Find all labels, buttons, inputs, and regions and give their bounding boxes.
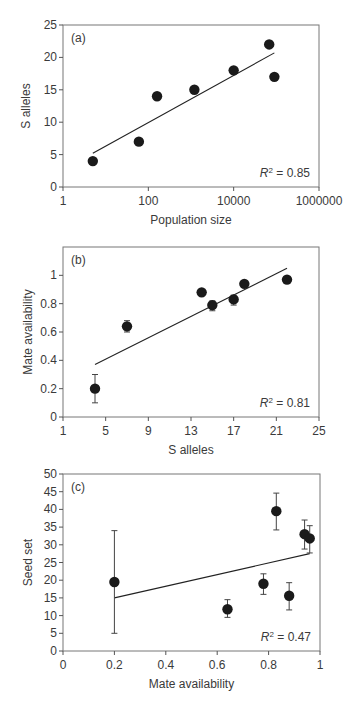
y-tick-label: 40 [44, 502, 58, 516]
x-tick-label: 17 [227, 424, 241, 438]
x-axis-title: Population size [150, 213, 232, 227]
data-point [152, 91, 162, 101]
y-tick-label: 15 [44, 591, 58, 605]
plot-frame [63, 25, 319, 187]
x-tick-label: 1 [60, 424, 67, 438]
x-tick-label: 10000 [217, 194, 251, 208]
y-tick-label: 15 [44, 83, 58, 97]
x-tick-label: 5 [102, 424, 109, 438]
y-tick-label: 0.8 [40, 297, 57, 311]
y-tick-label: 10 [44, 115, 58, 129]
y-tick-label: 45 [44, 485, 58, 499]
data-point [258, 579, 268, 589]
y-tick-label: 50 [44, 467, 58, 481]
data-point [269, 72, 279, 82]
data-point [282, 274, 292, 284]
x-tick-label: 9 [145, 424, 152, 438]
y-tick-label: 10 [44, 609, 58, 623]
y-tick-label: 0.2 [40, 382, 57, 396]
x-tick-label: 0.6 [209, 658, 226, 672]
y-tick-label: 35 [44, 520, 58, 534]
y-tick-label: 20 [44, 50, 58, 64]
x-tick-label: 13 [184, 424, 198, 438]
data-point [207, 300, 217, 310]
y-tick-label: 30 [44, 538, 58, 552]
r-squared-label: R2 = 0.47 [261, 630, 311, 645]
data-point [109, 577, 119, 587]
y-tick-label: 25 [44, 18, 58, 32]
data-point [196, 287, 206, 297]
data-point [264, 39, 274, 49]
x-axis-title: Mate availability [149, 677, 234, 691]
r-squared-label: R2 = 0.81 [260, 396, 310, 411]
plot-frame [63, 474, 320, 651]
data-point [239, 279, 249, 289]
panel-label: (c) [71, 480, 85, 494]
y-tick-label: 25 [44, 556, 58, 570]
x-tick-label: 100 [138, 194, 158, 208]
y-tick-label: 5 [50, 626, 57, 640]
figure: 05101520251100100001000000Population siz… [0, 0, 345, 702]
x-tick-label: 0 [60, 658, 67, 672]
panel-b: 00.20.40.60.8115913172125S allelesMate a… [21, 247, 326, 457]
plot-frame [63, 247, 319, 417]
x-tick-label: 0.2 [106, 658, 123, 672]
data-point [222, 604, 232, 614]
data-point [88, 156, 98, 166]
regression-line [114, 554, 309, 598]
data-point [228, 294, 238, 304]
x-tick-label: 0.8 [260, 658, 277, 672]
figure-canvas: 05101520251100100001000000Population siz… [0, 0, 345, 702]
panel-a: 05101520251100100001000000Population siz… [19, 18, 343, 227]
panel-label: (b) [71, 253, 86, 267]
x-tick-label: 1 [60, 194, 67, 208]
y-tick-label: 0.4 [40, 353, 57, 367]
y-tick-label: 5 [50, 148, 57, 162]
regression-line [93, 53, 275, 153]
y-tick-label: 0 [50, 180, 57, 194]
y-tick-label: 20 [44, 573, 58, 587]
x-tick-label: 1000000 [296, 194, 343, 208]
data-point [134, 136, 144, 146]
y-tick-label: 1 [50, 268, 57, 282]
x-tick-label: 1 [317, 658, 324, 672]
y-tick-label: 0 [50, 644, 57, 658]
data-point [305, 533, 315, 543]
data-point [122, 321, 132, 331]
x-tick-label: 0.4 [157, 658, 174, 672]
y-axis-title: Seed set [21, 538, 35, 586]
panel-label: (a) [71, 31, 86, 45]
data-point [228, 65, 238, 75]
data-point [284, 591, 294, 601]
x-tick-label: 25 [312, 424, 326, 438]
r-squared-label: R2 = 0.85 [260, 166, 310, 181]
x-tick-label: 21 [270, 424, 284, 438]
y-tick-label: 0 [50, 410, 57, 424]
panel-c: 0510152025303540455000.20.40.60.81Mate a… [21, 467, 324, 691]
y-axis-title: Mate availability [21, 289, 35, 374]
data-point [271, 506, 281, 516]
regression-line [95, 268, 287, 364]
data-point [90, 383, 100, 393]
x-axis-title: S alleles [168, 443, 213, 457]
y-axis-title: S alleles [19, 83, 33, 128]
y-tick-label: 0.6 [40, 325, 57, 339]
data-point [189, 85, 199, 95]
